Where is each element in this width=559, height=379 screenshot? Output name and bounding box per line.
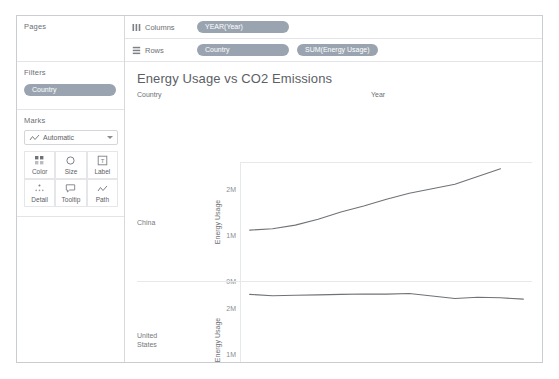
field-headers: Country Year — [125, 90, 542, 104]
marks-button-color-label: Color — [32, 168, 48, 175]
marks-card: Marks Automatic — [17, 110, 124, 217]
page-title: Energy Usage vs CO2 Emissions — [125, 62, 542, 86]
line-chart-china — [241, 163, 532, 281]
path-line-icon — [29, 133, 40, 143]
columns-shelf[interactable]: Columns YEAR(Year) — [125, 16, 542, 39]
color-squares-icon — [34, 156, 45, 166]
y-tick-1m-usa: 1M — [226, 350, 236, 357]
marks-type-dropdown[interactable]: Automatic — [24, 130, 118, 145]
marks-button-path[interactable]: Path — [87, 179, 118, 207]
y-tick-2m-china: 2M — [226, 186, 236, 193]
marks-button-path-label: Path — [96, 196, 109, 203]
tableau-worksheet-window: Pages Filters Country Marks Automatic — [16, 15, 543, 363]
rows-shelf-label: Rows — [145, 46, 197, 55]
marks-buttons-grid: Color Size T Label — [24, 151, 118, 207]
filters-card[interactable]: Filters Country — [17, 62, 124, 110]
tooltip-bubble-icon — [65, 184, 76, 194]
marks-button-color[interactable]: Color — [24, 151, 55, 179]
rows-shelf-pills: Country SUM(Energy Usage) — [197, 44, 378, 56]
left-sidebar: Pages Filters Country Marks Automatic — [17, 16, 125, 362]
chevron-down-icon — [107, 136, 113, 139]
marks-button-detail[interactable]: Detail — [24, 179, 55, 207]
svg-text:T: T — [100, 158, 104, 164]
pages-card-title: Pages — [24, 22, 117, 31]
pill-sum-energy-usage[interactable]: SUM(Energy Usage) — [297, 44, 378, 56]
rows-icon — [131, 46, 141, 55]
columns-shelf-label: Columns — [145, 23, 197, 32]
plot-area-united-states[interactable] — [240, 281, 532, 362]
marks-button-label-label: Label — [94, 168, 110, 175]
y-axis-ticks-china: 0M 1M 2M — [212, 162, 236, 281]
panel-row-united-states: United States Energy Usage 0M 1M 2M — [137, 281, 532, 362]
visualization-area: Energy Usage vs CO2 Emissions Country Ye… — [125, 62, 542, 362]
sidebar-empty-area — [17, 217, 124, 362]
detail-dots-icon — [34, 184, 45, 194]
marks-button-tooltip[interactable]: Tooltip — [55, 179, 86, 207]
label-text-icon: T — [97, 156, 108, 166]
marks-button-detail-label: Detail — [31, 196, 48, 203]
marks-type-label: Automatic — [43, 134, 107, 141]
rows-shelf[interactable]: Rows Country SUM(Energy Usage) — [125, 39, 542, 62]
year-field-header: Year — [371, 91, 385, 98]
path-line-icon — [97, 184, 108, 194]
row-label-china: China — [137, 217, 179, 226]
y-tick-1m-china: 1M — [226, 232, 236, 239]
pill-year[interactable]: YEAR(Year) — [197, 21, 289, 33]
country-field-header: Country — [137, 91, 162, 98]
y-axis-ticks-united-states: 0M 1M 2M — [212, 281, 236, 362]
y-tick-2m-usa: 2M — [226, 305, 236, 312]
filters-card-title: Filters — [24, 68, 117, 77]
row-label-united-states: United States — [137, 331, 179, 349]
columns-icon — [131, 23, 141, 32]
marks-button-size-label: Size — [65, 168, 78, 175]
pill-country[interactable]: Country — [197, 44, 289, 56]
panel-row-china: China Energy Usage 0M 1M 2M — [137, 162, 532, 281]
plot-wrapper: China Energy Usage 0M 1M 2M — [125, 162, 542, 362]
marks-button-tooltip-label: Tooltip — [62, 196, 81, 203]
line-chart-united-states — [241, 281, 532, 362]
size-circle-icon — [65, 156, 76, 166]
main-panel: Columns YEAR(Year) Rows Country SUM(Ener… — [125, 16, 542, 362]
filter-pill-country[interactable]: Country — [24, 84, 116, 96]
marks-card-title: Marks — [24, 116, 117, 125]
marks-button-size[interactable]: Size — [55, 151, 86, 179]
plot-area-china[interactable] — [240, 162, 532, 281]
columns-shelf-pills: YEAR(Year) — [197, 21, 289, 33]
pages-card[interactable]: Pages — [17, 16, 124, 62]
marks-button-label[interactable]: T Label — [87, 151, 118, 179]
